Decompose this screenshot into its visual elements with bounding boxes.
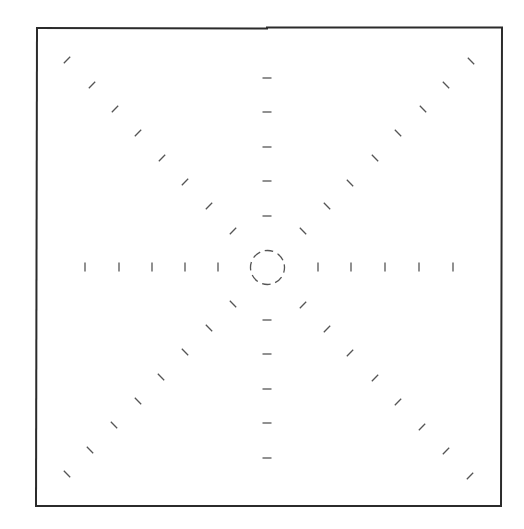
center-dashed-circle [248, 248, 288, 288]
ray-up-left [64, 57, 236, 234]
ray-up [263, 78, 272, 216]
diagram-canvas [0, 0, 524, 529]
tick-mark [87, 447, 93, 453]
tick-mark [89, 82, 95, 88]
tick-mark [158, 374, 164, 380]
ray-up-right [300, 58, 474, 234]
tick-mark [206, 325, 212, 331]
tick-mark [347, 180, 353, 186]
tick-mark [347, 350, 353, 356]
tick-mark [419, 424, 425, 430]
tick-mark [159, 155, 165, 161]
tick-mark [230, 301, 236, 307]
tick-mark [135, 130, 141, 136]
frame-top-edge-left [37, 28, 267, 29]
tick-mark [395, 399, 401, 405]
tick-mark [372, 155, 378, 161]
tick-mark [300, 302, 306, 308]
tick-mark [112, 106, 118, 112]
tick-mark [206, 203, 212, 209]
tick-mark [182, 179, 188, 185]
radial-tick-marks [64, 57, 474, 479]
ray-down [263, 320, 272, 458]
tick-mark [300, 228, 306, 234]
tick-mark [467, 473, 473, 479]
ray-down-left [64, 301, 236, 477]
frame-right-edge [501, 28, 502, 506]
tick-mark [443, 82, 449, 88]
tick-mark [64, 471, 70, 477]
tick-mark [64, 57, 70, 63]
ray-left [85, 263, 218, 272]
tick-mark [324, 203, 330, 209]
square-frame [36, 28, 502, 506]
tick-mark [395, 130, 401, 136]
ray-right [318, 263, 453, 272]
tick-mark [443, 448, 449, 454]
tick-mark [372, 375, 378, 381]
tick-mark [468, 58, 474, 64]
radial-tick-diagram [0, 0, 524, 529]
tick-mark [182, 349, 188, 355]
tick-mark [111, 422, 117, 428]
tick-mark [420, 106, 426, 112]
tick-mark [230, 228, 236, 234]
ray-down-right [300, 302, 473, 479]
tick-mark [324, 326, 330, 332]
tick-mark [135, 398, 141, 404]
frame-left-edge [36, 28, 37, 506]
